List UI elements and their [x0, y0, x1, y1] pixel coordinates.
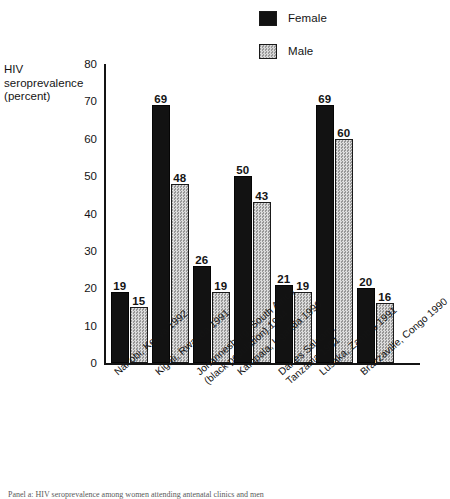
bar-male: 60 — [335, 139, 353, 363]
bar-group: 6948 — [152, 64, 193, 363]
bar-male: 15 — [130, 307, 148, 363]
y-tick-label: 40 — [57, 208, 97, 220]
bar-male: 43 — [253, 202, 271, 363]
bar-value-label: 16 — [378, 291, 391, 303]
bar-value-label: 60 — [337, 127, 350, 139]
bar-group: 5043 — [234, 64, 275, 363]
y-tick-label: 20 — [57, 282, 97, 294]
bar-value-label: 19 — [296, 280, 309, 292]
bar-female: 69 — [152, 105, 170, 363]
y-axis-title-line-2: seroprevalence — [4, 77, 96, 91]
bar-value-label: 50 — [236, 164, 249, 176]
legend-item-male: Male — [259, 43, 399, 59]
bar-group: 1915 — [111, 64, 152, 363]
bar-female: 26 — [193, 266, 211, 363]
bar-male: 48 — [171, 184, 189, 363]
bar-female: 20 — [357, 288, 375, 363]
y-tick-label: 70 — [57, 95, 97, 107]
bar-value-label: 19 — [214, 280, 227, 292]
y-tick-label: 30 — [57, 245, 97, 257]
y-tick-label: 80 — [57, 58, 97, 70]
bar-value-label: 21 — [277, 273, 290, 285]
bar-value-label: 48 — [173, 172, 186, 184]
bar-group: 2119 — [275, 64, 316, 363]
legend-label-male: Male — [288, 45, 313, 57]
y-tick-label: 60 — [57, 133, 97, 145]
legend-swatch-male-icon — [259, 44, 277, 59]
bar-value-label: 26 — [195, 254, 208, 266]
y-tick-label: 50 — [57, 170, 97, 182]
bar-group: 2016 — [357, 64, 398, 363]
bar-female: 50 — [234, 176, 252, 363]
bar-female: 19 — [111, 292, 129, 363]
bar-male: 16 — [376, 303, 394, 363]
bar-value-label: 69 — [318, 93, 331, 105]
bar-male: 19 — [294, 292, 312, 363]
y-tick-label: 10 — [57, 320, 97, 332]
legend-label-female: Female — [288, 12, 327, 24]
bar-value-label: 69 — [154, 93, 167, 105]
x-axis-line — [104, 363, 420, 365]
plot-area: 01020304050607080 1915694826195043211969… — [104, 64, 420, 363]
bar-group: 2619 — [193, 64, 234, 363]
y-axis-line — [104, 64, 106, 363]
bar-female: 69 — [316, 105, 334, 363]
legend-item-female: Female — [259, 10, 399, 26]
figure-caption: Panel a: HIV seroprevalence among women … — [8, 490, 428, 499]
legend-swatch-female-icon — [259, 11, 277, 26]
bar-male: 19 — [212, 292, 230, 363]
bar-value-label: 19 — [113, 280, 126, 292]
bar-value-label: 15 — [132, 295, 145, 307]
y-tick-label: 0 — [57, 357, 97, 369]
bar-group: 6960 — [316, 64, 357, 363]
bar-female: 21 — [275, 285, 293, 363]
bar-value-label: 43 — [255, 190, 268, 202]
bar-value-label: 20 — [359, 276, 372, 288]
